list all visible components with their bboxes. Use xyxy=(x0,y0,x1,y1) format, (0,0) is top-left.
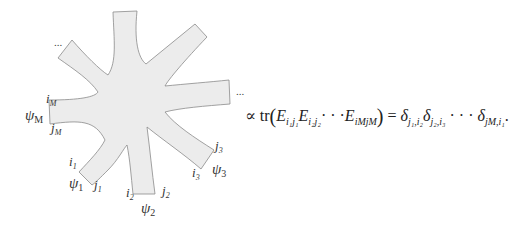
label-iM: iM xyxy=(46,92,56,108)
trace-equation: ∝ tr(Ei₁j₁Ei₂j₂· · ·EiMjM) = δj₁,i₂δj₂,i… xyxy=(245,105,509,128)
trace-operator: tr xyxy=(260,107,270,124)
label-psi1: ψ1 xyxy=(69,176,83,193)
ellipsis-top-left: ... xyxy=(54,36,62,48)
label-psiM: ψM xyxy=(25,108,43,125)
label-psi3: ψ3 xyxy=(212,162,226,179)
ellipsis-right: ... xyxy=(236,85,244,97)
right-paren: ) xyxy=(377,105,384,127)
label-i1: i1 xyxy=(69,155,77,171)
label-j3: j3 xyxy=(215,139,223,155)
label-jM: jM xyxy=(51,121,61,137)
equals-sign: = xyxy=(388,107,397,124)
proportional-symbol: ∝ xyxy=(245,107,256,124)
label-i3: i3 xyxy=(192,166,200,182)
label-i2: i2 xyxy=(126,186,134,202)
label-psi2: ψ2 xyxy=(141,201,155,218)
label-j1: j1 xyxy=(94,178,102,194)
label-j2: j2 xyxy=(162,184,170,200)
